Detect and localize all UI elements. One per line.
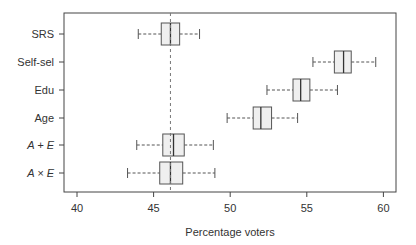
x-tick-label: 40 xyxy=(71,202,83,214)
y-tick-label: Age xyxy=(34,112,54,124)
x-axis: 4045505560 xyxy=(71,192,390,214)
box-a-e xyxy=(128,162,215,184)
box-iqr xyxy=(253,107,271,129)
box-a-e xyxy=(137,134,214,156)
x-axis-label: Percentage voters xyxy=(185,226,275,238)
box-iqr xyxy=(293,79,310,101)
box-self-sel xyxy=(313,51,376,73)
box-srs xyxy=(138,23,199,45)
box-iqr xyxy=(334,51,351,73)
y-axis: SRSSelf-selEduAgeA + EA × E xyxy=(17,28,64,179)
y-tick-label: Edu xyxy=(34,84,54,96)
x-tick-label: 55 xyxy=(301,202,313,214)
y-tick-label: SRS xyxy=(31,28,54,40)
boxplot-chart: SRSSelf-selEduAgeA + EA × E 4045505560 P… xyxy=(0,0,416,245)
x-tick-label: 60 xyxy=(377,202,389,214)
box-age xyxy=(227,107,297,129)
plot-frame xyxy=(64,13,396,192)
x-tick-label: 45 xyxy=(147,202,159,214)
boxes-group xyxy=(128,23,376,184)
y-tick-label: A × E xyxy=(26,167,54,179)
y-tick-label: Self-sel xyxy=(17,56,54,68)
box-iqr xyxy=(160,162,183,184)
x-tick-label: 50 xyxy=(224,202,236,214)
y-tick-label: A + E xyxy=(26,139,54,151)
box-edu xyxy=(267,79,337,101)
